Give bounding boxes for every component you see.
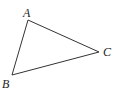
triangle-diagram: A B C — [0, 0, 119, 94]
vertex-label-c: C — [103, 45, 112, 59]
triangle-abc — [12, 20, 99, 75]
vertex-label-b: B — [2, 77, 10, 91]
vertex-label-a: A — [22, 6, 31, 20]
